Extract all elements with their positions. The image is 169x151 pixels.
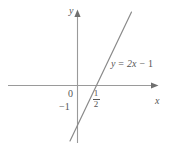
- graph-figure: y x 0 −1 1 2 y = 2x − 1: [0, 0, 169, 151]
- y-intercept-tick-label: −1: [59, 102, 70, 112]
- line-plot: [70, 12, 132, 141]
- x-intercept-tick-label: 1 2: [90, 89, 102, 110]
- equation-minus-sign: −: [137, 58, 148, 69]
- fraction-numerator: 1: [90, 89, 102, 98]
- equation-constant-term: 1: [148, 58, 153, 69]
- x-axis-label: x: [155, 96, 159, 106]
- y-axis: [74, 10, 80, 144]
- y-axis-label: y: [69, 6, 73, 16]
- fraction-denominator: 2: [90, 100, 102, 109]
- equation-annotation: y = 2x − 1: [111, 59, 153, 69]
- x-axis: [8, 82, 159, 88]
- y-axis-arrowhead: [74, 10, 80, 18]
- x-axis-arrowhead: [151, 82, 159, 88]
- equation-slope-term: 2x: [127, 58, 137, 69]
- coordinate-plane: [0, 0, 169, 151]
- origin-tick-label: 0: [68, 89, 73, 99]
- equation-equals-sign: =: [116, 58, 127, 69]
- line-y-equals-2x-minus-1: [70, 12, 132, 141]
